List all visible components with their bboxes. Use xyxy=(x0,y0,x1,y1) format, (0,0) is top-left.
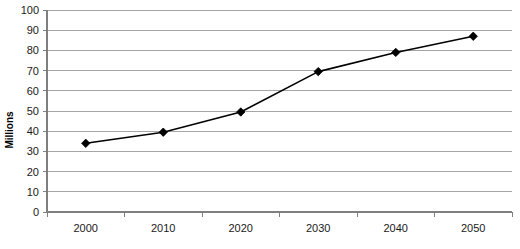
y-axis-tick-label: 20 xyxy=(27,166,39,178)
x-axis-tick-label: 2030 xyxy=(306,222,330,234)
y-axis-tick-label: 10 xyxy=(27,186,39,198)
y-axis-tick-label: 100 xyxy=(21,4,39,16)
y-axis-tick-label: 60 xyxy=(27,85,39,97)
y-axis-tick-label: 50 xyxy=(27,105,39,117)
chart-canvas: 0102030405060708090100 20002010202020302… xyxy=(0,0,520,249)
y-axis-tick-label: 70 xyxy=(27,65,39,77)
x-axis-tick-label: 2040 xyxy=(384,222,408,234)
x-axis-tick-label: 2020 xyxy=(229,222,253,234)
line-chart: 0102030405060708090100 20002010202020302… xyxy=(0,0,520,249)
y-axis-tick-label: 40 xyxy=(27,125,39,137)
y-axis-tick-label: 30 xyxy=(27,145,39,157)
y-axis-tick-label: 90 xyxy=(27,24,39,36)
y-axis-tick-label: 0 xyxy=(33,206,39,218)
x-axis-tick-label: 2010 xyxy=(151,222,175,234)
x-axis-tick-label: 2000 xyxy=(74,222,98,234)
x-axis-tick-label: 2050 xyxy=(461,222,485,234)
y-axis-title: Millions xyxy=(4,111,15,149)
y-axis-tick-label: 80 xyxy=(27,44,39,56)
